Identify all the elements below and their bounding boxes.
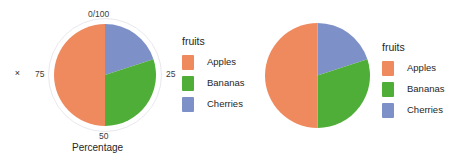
chart-panel-left: × 0/100 25 50 75 Percentage fruits Apple… [0,0,230,159]
legend-right: fruits Apples Bananas Cherries [382,42,445,121]
pie-slice-apples-left[interactable] [54,24,105,126]
legend-swatch-cherries-icon [182,97,194,112]
pie-chart-left[interactable] [54,24,156,126]
pie-svg-left [54,24,156,126]
legend-item-bananas[interactable]: Bananas [382,79,445,100]
legend-swatch-bananas-icon [382,82,394,97]
legend-swatch-apples-icon [382,61,394,76]
legend-title: fruits [382,42,445,53]
cursor-marker: × [13,69,22,78]
pie-svg-right [265,23,370,128]
axis-title-percentage: Percentage [72,142,123,153]
legend-label-cherries: Cherries [407,105,443,115]
polar-tick-right: 25 [166,70,175,79]
legend-item-cherries[interactable]: Cherries [382,100,445,121]
legend-swatch-apples-icon [182,55,194,70]
figure-canvas: × 0/100 25 50 75 Percentage fruits Apple… [0,0,461,159]
chart-panel-right: fruits Apples Bananas Cherries [230,0,461,159]
legend-items: Apples Bananas Cherries [382,58,445,121]
polar-tick-top: 0/100 [88,10,109,19]
pie-slice-apples-right[interactable] [265,23,318,128]
polar-tick-left: 75 [35,70,44,79]
legend-label-apples: Apples [407,63,436,73]
pie-chart-right[interactable] [265,23,370,128]
legend-swatch-cherries-icon [382,103,394,118]
legend-swatch-bananas-icon [182,76,194,91]
legend-label-bananas: Bananas [407,84,445,94]
legend-item-apples[interactable]: Apples [382,58,445,79]
polar-tick-bottom: 50 [99,132,108,141]
